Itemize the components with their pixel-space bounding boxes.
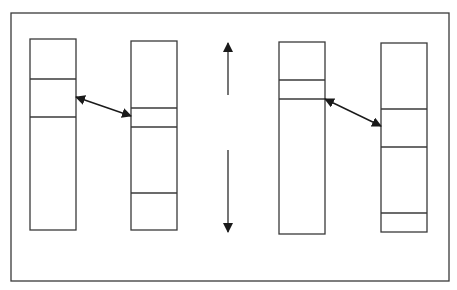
column-1 — [30, 39, 76, 230]
column-box — [30, 39, 76, 230]
column-2 — [131, 41, 177, 230]
mapping-arrow-2 — [325, 99, 381, 126]
column-4 — [381, 43, 427, 232]
block-mapping-diagram — [0, 0, 457, 290]
column-box — [381, 43, 427, 232]
mapping-arrows-group — [76, 97, 381, 126]
column-3 — [279, 42, 325, 234]
mapping-arrow-1 — [76, 97, 131, 116]
column-box — [279, 42, 325, 234]
column-box — [131, 41, 177, 230]
